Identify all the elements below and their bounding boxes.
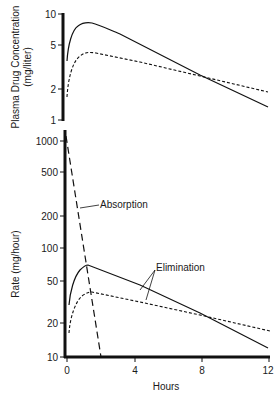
bottom-tick-10: 10	[47, 352, 59, 363]
bottom-tick-500: 500	[41, 167, 58, 178]
top-y-axis-title: Plasma Drug Concentration	[10, 6, 21, 129]
x-tick-0: 0	[64, 365, 70, 376]
elimination-leader-2	[146, 270, 155, 300]
bottom-tick-1000: 1000	[36, 136, 59, 147]
absorption-line	[66, 136, 101, 357]
top-y-axis-unit: (mg/liter)	[22, 47, 33, 86]
elimination-solid-curve	[69, 265, 268, 348]
absorption-leader	[80, 205, 99, 208]
bottom-tick-50: 50	[47, 276, 59, 287]
top-tick-2: 2	[50, 84, 56, 95]
top-y-ticks: 10 5 2 1	[45, 9, 63, 126]
rate-chart: Rate (mg/hour) 1000 500 200 100 50 20 10…	[10, 130, 274, 392]
elimination-leader-1	[140, 270, 155, 290]
top-tick-5: 5	[50, 40, 56, 51]
concentration-chart: Plasma Drug Concentration (mg/liter) 10 …	[10, 6, 268, 129]
x-tick-8: 8	[199, 365, 205, 376]
top-tick-10: 10	[45, 9, 57, 20]
x-tick-4: 4	[132, 365, 138, 376]
top-dashed-curve	[67, 52, 268, 97]
top-tick-1: 1	[50, 115, 56, 126]
absorption-label: Absorption	[100, 199, 148, 210]
bottom-tick-200: 200	[41, 211, 58, 222]
x-tick-12: 12	[262, 365, 274, 376]
bottom-y-axis-title: Rate (mg/hour)	[10, 230, 21, 297]
bottom-y-ticks: 1000 500 200 100 50 20 10	[36, 136, 65, 363]
bottom-tick-100: 100	[41, 243, 58, 254]
x-axis-title: Hours	[153, 381, 180, 392]
elimination-label: Elimination	[156, 262, 205, 273]
top-solid-curve	[67, 23, 268, 107]
x-ticks: 0 4 8 12	[64, 357, 274, 376]
bottom-tick-20: 20	[47, 318, 59, 329]
pharmacokinetics-figure: Plasma Drug Concentration (mg/liter) 10 …	[0, 0, 280, 398]
